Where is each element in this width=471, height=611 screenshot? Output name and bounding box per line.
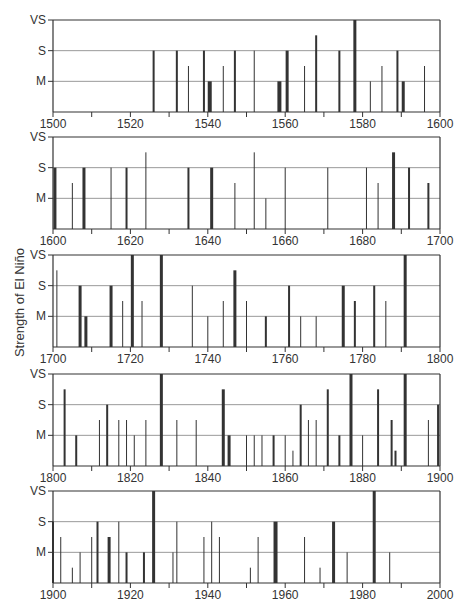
event-bar-1671 (327, 168, 328, 229)
event-bar-1803 (64, 389, 66, 466)
event-bar-1582 (370, 81, 371, 112)
event-bar-1866 (308, 420, 309, 466)
event-bar-1764 (300, 316, 301, 347)
event-bar-1953 (258, 537, 259, 583)
event-bar-1972.5 (332, 522, 335, 583)
event-bar-1783 (373, 286, 375, 347)
x-tick-label: 1960 (272, 588, 299, 602)
y-tick-label: M (36, 428, 46, 442)
x-tick-label: 1680 (349, 234, 376, 248)
event-bar-1723 (142, 301, 143, 347)
x-tick-label: 1600 (40, 234, 67, 248)
event-bar-1755 (265, 316, 267, 347)
event-bar-1965 (304, 537, 305, 583)
event-bar-1914.5 (108, 537, 111, 583)
event-bar-1857 (273, 435, 275, 466)
event-bar-1951 (250, 568, 251, 583)
x-tick-label: 1860 (272, 471, 299, 485)
event-bar-1887.5 (391, 420, 393, 466)
event-bar-1619 (126, 168, 128, 229)
event-bar-1897 (428, 420, 429, 466)
event-bar-1926 (152, 491, 155, 583)
x-tick-label: 1500 (40, 117, 67, 131)
x-tick-label: 2000 (427, 588, 454, 602)
event-bar-1728 (160, 255, 163, 347)
x-tick-label: 1540 (194, 117, 221, 131)
x-tick-label: 1700 (427, 234, 454, 248)
event-bar-1824 (145, 420, 146, 466)
event-bar-1845.5 (228, 435, 231, 466)
event-bar-1532 (176, 51, 178, 112)
x-tick-label: 1640 (194, 234, 221, 248)
event-bar-1547 (234, 51, 236, 112)
event-bar-1736 (192, 286, 193, 347)
y-tick-label: S (38, 161, 46, 175)
event-bar-1560.5 (286, 51, 289, 112)
event-bar-1786 (385, 301, 386, 347)
event-bar-1828 (160, 374, 163, 466)
event-bar-1880 (362, 435, 363, 466)
event-bar-1539 (203, 51, 205, 112)
event-bar-1917 (118, 522, 119, 583)
y-tick-label: S (38, 44, 46, 58)
event-bar-1688 (392, 152, 395, 229)
event-bar-1891 (404, 374, 407, 466)
event-bar-1814 (106, 405, 108, 466)
event-bar-1877 (349, 374, 352, 466)
event-bar-1655 (265, 198, 266, 229)
event-bar-1590.5 (402, 81, 405, 112)
event-bar-1544 (223, 66, 224, 112)
x-tick-label: 1900 (427, 471, 454, 485)
event-bar-1761 (288, 286, 290, 347)
event-bar-1708.5 (84, 316, 87, 347)
x-tick-label: 1820 (117, 471, 144, 485)
event-bar-1535 (188, 66, 189, 112)
event-bar-1605 (72, 183, 73, 229)
event-bar-1540.5 (208, 81, 212, 112)
y-tick-label: M (36, 309, 46, 323)
event-bar-1844 (222, 389, 225, 466)
event-bar-1768 (316, 316, 317, 347)
event-bar-1568 (315, 35, 317, 112)
y-tick-label: VS (30, 130, 46, 144)
y-axis-title: Strength of El Niño (12, 228, 27, 378)
event-bar-1740 (207, 316, 208, 347)
event-bar-1817 (118, 420, 119, 466)
event-bar-1868 (316, 420, 317, 466)
x-tick-label: 1840 (194, 471, 221, 485)
event-bar-1715 (110, 286, 113, 347)
event-bar-1911.5 (97, 522, 99, 583)
event-bar-1615 (111, 168, 112, 229)
x-tick-label: 1560 (272, 117, 299, 131)
event-bar-1647 (234, 183, 235, 229)
event-bar-1860 (285, 435, 286, 466)
event-bar-1871 (327, 389, 329, 466)
x-tick-label: 1800 (427, 352, 454, 366)
event-bar-1899.5 (437, 405, 439, 466)
event-bar-1565 (304, 66, 305, 112)
x-tick-label: 1520 (117, 117, 144, 131)
event-bar-1905 (72, 568, 73, 583)
event-bar-1600.5 (53, 168, 56, 229)
event-bar-1585 (381, 66, 382, 112)
x-tick-label: 1880 (349, 471, 376, 485)
event-bar-1701 (56, 270, 57, 347)
event-bar-1750 (246, 301, 247, 347)
event-bar-1864 (300, 405, 302, 466)
event-bar-1919 (126, 552, 128, 583)
y-tick-label: M (36, 191, 46, 205)
x-tick-label: 1800 (40, 471, 67, 485)
event-bar-1850 (246, 435, 247, 466)
event-bar-1837 (196, 420, 197, 466)
x-tick-label: 1720 (117, 352, 144, 366)
event-bar-1987 (389, 552, 390, 583)
event-bar-1641 (210, 168, 213, 229)
event-bar-1697 (427, 183, 429, 229)
event-bar-1652 (254, 152, 255, 229)
event-bar-1589 (396, 51, 398, 112)
y-tick-label: VS (30, 484, 46, 498)
event-bar-1747 (233, 270, 236, 347)
x-tick-label: 1900 (40, 588, 67, 602)
event-bar-1574 (338, 51, 340, 112)
event-bar-1888.5 (394, 451, 396, 466)
